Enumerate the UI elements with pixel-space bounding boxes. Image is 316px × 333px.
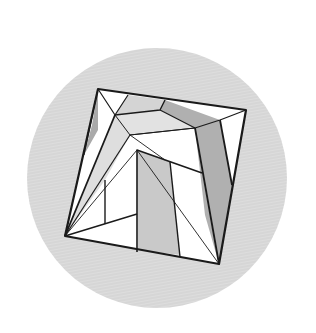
origami-diagram <box>0 0 316 333</box>
diagram-stage <box>0 0 316 333</box>
